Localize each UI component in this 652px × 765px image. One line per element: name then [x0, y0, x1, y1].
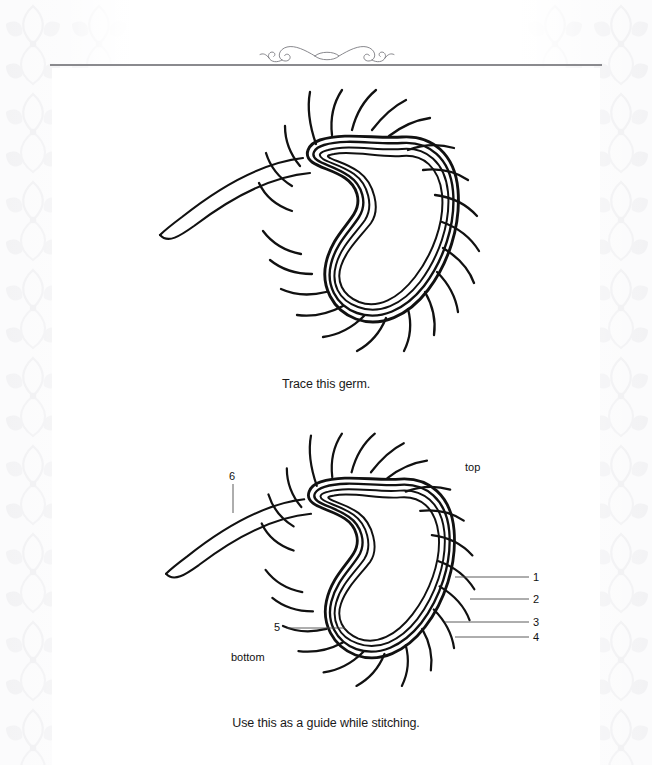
- caption-trace-this-germ: Trace this germ.: [0, 377, 652, 391]
- callout-number-3: 3: [533, 616, 539, 628]
- callout-number-5: 5: [274, 621, 280, 633]
- pattern-page: Trace this germ.: [0, 0, 652, 765]
- caption-use-as-guide: Use this as a guide while stitching.: [0, 716, 652, 730]
- germ-trace-illustration: [140, 78, 540, 378]
- callout-number-6: 6: [229, 470, 235, 482]
- flourish-ornament-icon: [257, 39, 397, 69]
- callout-number-2: 2: [533, 593, 539, 605]
- callout-number-4: 4: [533, 631, 539, 643]
- orientation-label-top: top: [465, 461, 480, 473]
- orientation-label-bottom: bottom: [231, 651, 265, 663]
- callout-number-1: 1: [533, 571, 539, 583]
